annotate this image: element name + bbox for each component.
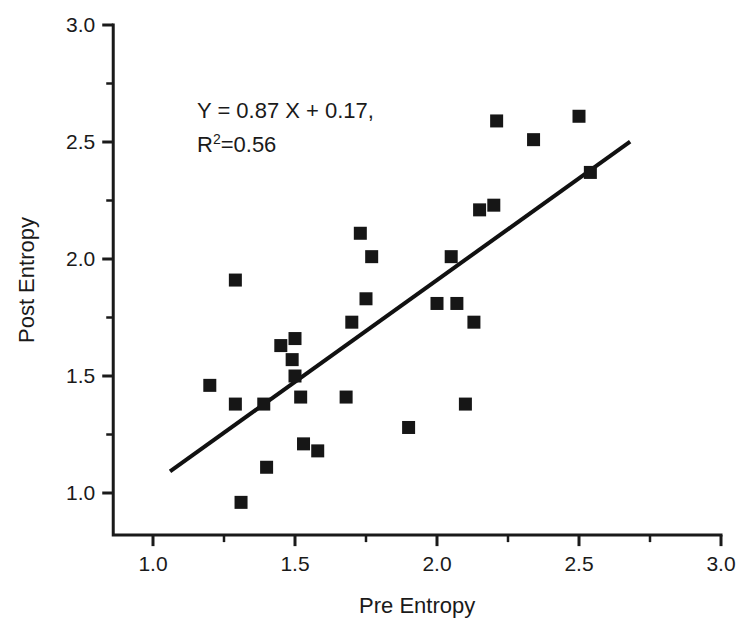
y-tick-label: 1.5 bbox=[66, 364, 95, 387]
data-point bbox=[573, 110, 586, 123]
data-point bbox=[402, 421, 415, 434]
data-point bbox=[431, 297, 444, 310]
data-point bbox=[487, 199, 500, 212]
data-point bbox=[490, 114, 503, 127]
data-point bbox=[365, 250, 378, 263]
data-point bbox=[467, 316, 480, 329]
x-axis-title: Pre Entropy bbox=[359, 593, 475, 618]
data-point bbox=[354, 227, 367, 240]
regression-line bbox=[170, 142, 630, 472]
x-tick-label: 1.5 bbox=[280, 552, 309, 575]
data-point bbox=[260, 461, 273, 474]
data-point bbox=[450, 297, 463, 310]
data-point bbox=[286, 353, 299, 366]
data-point bbox=[360, 292, 373, 305]
annotation-equation: Y = 0.87 X + 0.17, bbox=[197, 98, 374, 123]
data-point bbox=[340, 391, 353, 404]
data-point bbox=[229, 398, 242, 411]
data-point bbox=[257, 398, 270, 411]
data-point bbox=[274, 339, 287, 352]
data-point bbox=[459, 398, 472, 411]
data-point bbox=[203, 379, 216, 392]
data-point bbox=[294, 391, 307, 404]
x-tick-label: 2.5 bbox=[564, 552, 593, 575]
y-tick-label: 2.5 bbox=[66, 130, 95, 153]
annotation-r-squared: R2=0.56 bbox=[197, 131, 276, 157]
scatter-plot-figure: 1.01.52.02.53.01.01.52.02.53.0Pre Entrop… bbox=[0, 0, 753, 634]
x-tick-label: 3.0 bbox=[706, 552, 735, 575]
data-point bbox=[584, 166, 597, 179]
y-axis-title: Post Entropy bbox=[14, 217, 39, 343]
y-tick-label: 2.0 bbox=[66, 247, 95, 270]
data-point bbox=[311, 444, 324, 457]
data-point bbox=[229, 274, 242, 287]
x-tick-label: 2.0 bbox=[422, 552, 451, 575]
plot-canvas: 1.01.52.02.53.01.01.52.02.53.0Pre Entrop… bbox=[0, 0, 753, 634]
x-tick-label: 1.0 bbox=[138, 552, 167, 575]
data-point bbox=[289, 332, 302, 345]
y-tick-label: 3.0 bbox=[66, 13, 95, 36]
y-tick-label: 1.0 bbox=[66, 481, 95, 504]
data-point bbox=[527, 133, 540, 146]
data-point bbox=[289, 370, 302, 383]
data-point bbox=[235, 496, 248, 509]
data-point bbox=[345, 316, 358, 329]
data-point bbox=[297, 437, 310, 450]
data-point bbox=[445, 250, 458, 263]
data-point bbox=[473, 203, 486, 216]
